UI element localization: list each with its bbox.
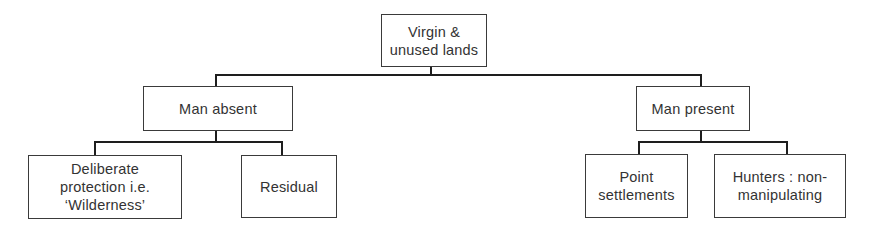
node-virgin-unused-lands: Virgin & unused lands [381,14,487,67]
node-hunters-non-manipulating: Hunters : non- manipulating [714,154,846,218]
connector-to-man-present [700,74,702,86]
node-label: Hunters : non- manipulating [733,168,828,204]
node-label: Man absent [179,100,257,118]
node-man-present: Man present [636,86,750,131]
connector-man-present-horizontal [638,141,788,143]
connector-man-absent-horizontal [94,141,283,143]
node-point-settlements: Point settlements [585,154,688,218]
node-deliberate-protection: Deliberate protection i.e. ‘Wilderness’ [28,155,182,219]
node-label: Residual [260,178,318,196]
node-label: Virgin & unused lands [390,23,479,59]
node-label: Man present [652,100,735,118]
node-residual: Residual [241,155,337,218]
connector-to-point-settlements [638,141,640,155]
connector-to-hunters [786,141,788,155]
connector-level1-horizontal [215,74,702,76]
node-man-absent: Man absent [143,86,293,131]
connector-to-man-absent [215,74,217,86]
node-label: Point settlements [598,168,674,204]
node-label: Deliberate protection i.e. ‘Wilderness’ [60,160,150,214]
connector-to-residual [281,141,283,155]
connector-to-deliberate [94,141,96,155]
